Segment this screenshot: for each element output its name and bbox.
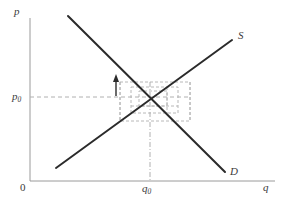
curves-group xyxy=(56,16,232,172)
supply-demand-figure: p p0 0 q q0 S D xyxy=(0,0,283,206)
x-axis-label: q xyxy=(263,182,269,193)
p0-base: p xyxy=(12,90,18,102)
supply-curve-label: S xyxy=(238,30,244,41)
p0-subscript: 0 xyxy=(18,95,22,104)
demand-curve xyxy=(68,16,225,172)
y-axis-label: p xyxy=(14,6,20,17)
q0-subscript: 0 xyxy=(148,187,152,196)
upward-arrow-annotation xyxy=(113,74,119,96)
q0-base: q xyxy=(142,182,148,194)
supply-curve xyxy=(56,40,232,168)
arrow-head-icon xyxy=(113,74,119,82)
reference-lines-group xyxy=(30,82,190,181)
demand-curve-label: D xyxy=(230,166,238,177)
origin-label: 0 xyxy=(20,182,26,193)
q0-tick-label: q0 xyxy=(142,183,151,194)
p0-tick-label: p0 xyxy=(12,91,21,102)
